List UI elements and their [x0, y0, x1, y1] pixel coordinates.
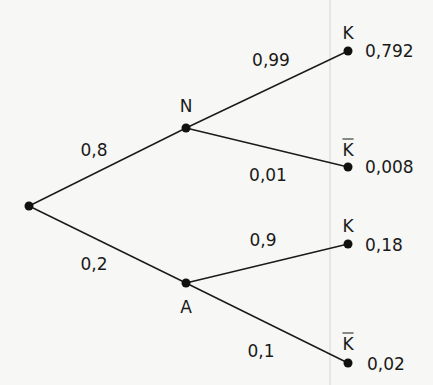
node-n-k: [344, 47, 353, 56]
result-n-k: 0,792: [365, 43, 414, 60]
label-a: A: [180, 299, 192, 316]
label-kbar-upper: K: [342, 142, 353, 159]
prob-n-kbar: 0,01: [249, 167, 287, 184]
branch-a-k: [186, 244, 348, 283]
node-a-k: [344, 240, 353, 249]
prob-a: 0,2: [80, 256, 107, 273]
branch-root-n: [29, 128, 186, 206]
result-a-k: 0,18: [365, 237, 403, 254]
result-n-kbar: 0,008: [365, 159, 414, 176]
prob-n: 0,8: [80, 142, 107, 159]
branch-n-kbar: [186, 128, 348, 167]
label-n: N: [180, 98, 193, 115]
root-node: [25, 202, 34, 211]
prob-n-k: 0,99: [252, 52, 290, 69]
probability-tree-diagram: N A K K K K 0,8 0,2 0,99 0,01 0,9 0,1 0,…: [0, 0, 433, 385]
prob-a-kbar: 0,1: [247, 343, 274, 360]
result-a-kbar: 0,02: [367, 356, 405, 373]
node-n: [182, 124, 191, 133]
prob-a-k: 0,9: [249, 232, 276, 249]
label-kbar-lower: K: [342, 336, 353, 353]
label-k-lower: K: [342, 218, 353, 235]
node-a: [182, 279, 191, 288]
node-n-kbar: [344, 163, 353, 172]
label-k-upper: K: [342, 25, 353, 42]
node-a-kbar: [344, 359, 353, 368]
